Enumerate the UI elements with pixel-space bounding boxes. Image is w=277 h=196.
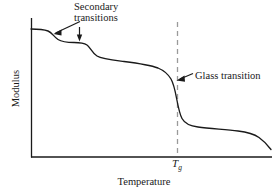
- plot-canvas: [0, 0, 277, 196]
- secondary-transition-arrow-2: [77, 27, 82, 42]
- tg-tick-label: Tg: [164, 158, 190, 172]
- secondary-transitions-line2: transitions: [74, 12, 118, 23]
- secondary-transitions-line1: Secondary: [74, 1, 118, 12]
- modulus-curve: [31, 29, 271, 150]
- y-axis-label: Modulus: [10, 59, 21, 119]
- tg-subscript: g: [178, 163, 182, 172]
- modulus-temperature-figure: Secondarytransitions Glass transition Mo…: [0, 0, 277, 196]
- glass-transition-arrow: [177, 74, 194, 82]
- secondary-transitions-label: Secondarytransitions: [74, 1, 118, 24]
- glass-transition-label: Glass transition: [195, 70, 261, 81]
- x-axis-label: Temperature: [89, 176, 199, 187]
